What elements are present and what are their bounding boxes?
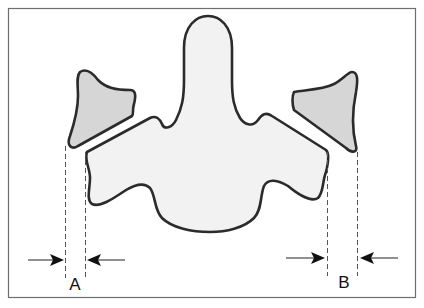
label-a: A (69, 275, 81, 294)
label-b: B (338, 273, 349, 292)
diagram-canvas: A B (0, 0, 424, 308)
